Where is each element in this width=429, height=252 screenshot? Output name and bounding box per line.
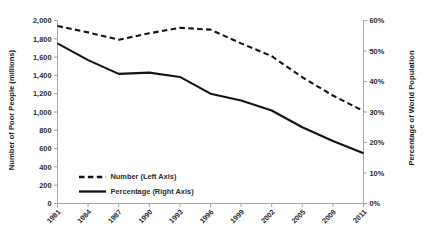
series-line-number xyxy=(58,26,364,111)
right-axis-tick-label: 40% xyxy=(370,77,385,86)
right-axis-tick-label: 50% xyxy=(370,47,385,56)
right-axis-tick-label: 0% xyxy=(370,199,381,208)
x-axis-tick-label: 1987 xyxy=(106,208,124,226)
x-axis-tick-label: 1981 xyxy=(45,208,63,226)
left-axis-tick-label: 600 xyxy=(39,144,51,153)
chart-container: 02004006008001,0001,2001,4001,6001,8002,… xyxy=(0,0,429,252)
left-axis-tick-label: 1,800 xyxy=(33,35,52,44)
chart-legend: Number (Left Axis)Percentage (Right Axis… xyxy=(79,172,194,196)
left-axis-tick-label: 1,600 xyxy=(33,53,52,62)
left-axis-tick-label: 1,000 xyxy=(33,108,52,117)
right-axis-tick-label: 30% xyxy=(370,108,385,117)
y-axis-title: Number of Poor People (millions) xyxy=(7,49,16,170)
series-lines xyxy=(58,26,364,153)
left-axis-tick-label: 2,000 xyxy=(33,16,52,25)
right-axis: 0%10%20%30%40%50%60% xyxy=(364,16,385,208)
left-axis-tick-label: 200 xyxy=(39,181,51,190)
left-axis-tick-label: 800 xyxy=(39,126,51,135)
poverty-trend-line-chart: 02004006008001,0001,2001,4001,6001,8002,… xyxy=(0,0,429,252)
right-axis-tick-label: 60% xyxy=(370,16,385,25)
y2-axis-title: Percentage of World Population xyxy=(407,50,416,165)
left-axis-tick-label: 0 xyxy=(47,199,51,208)
left-axis-tick-label: 1,400 xyxy=(33,71,52,80)
left-axis-tick-label: 1,200 xyxy=(33,89,52,98)
right-axis-tick-label: 10% xyxy=(370,169,385,178)
left-axis: 02004006008001,0001,2001,4001,6001,8002,… xyxy=(33,16,58,208)
left-axis-tick-label: 400 xyxy=(39,163,51,172)
series-line-percentage xyxy=(58,43,364,153)
x-axis-tick-label: 1999 xyxy=(228,208,246,226)
legend-label-1: Number (Left Axis) xyxy=(111,172,177,181)
category-axis: 1981198419871990199319961999200220052008… xyxy=(45,204,369,226)
legend-label-2: Percentage (Right Axis) xyxy=(111,187,195,196)
x-axis-tick-label: 1996 xyxy=(198,208,216,226)
x-axis-tick-label: 1990 xyxy=(137,208,155,226)
x-axis-tick-label: 2011 xyxy=(351,208,368,225)
x-axis-tick-label: 2005 xyxy=(290,208,308,226)
x-axis-tick-label: 2008 xyxy=(320,208,338,226)
x-axis-tick-label: 2002 xyxy=(259,208,277,226)
x-axis-tick-label: 1993 xyxy=(167,208,185,226)
right-axis-tick-label: 20% xyxy=(370,138,385,147)
x-axis-tick-label: 1984 xyxy=(75,208,93,226)
